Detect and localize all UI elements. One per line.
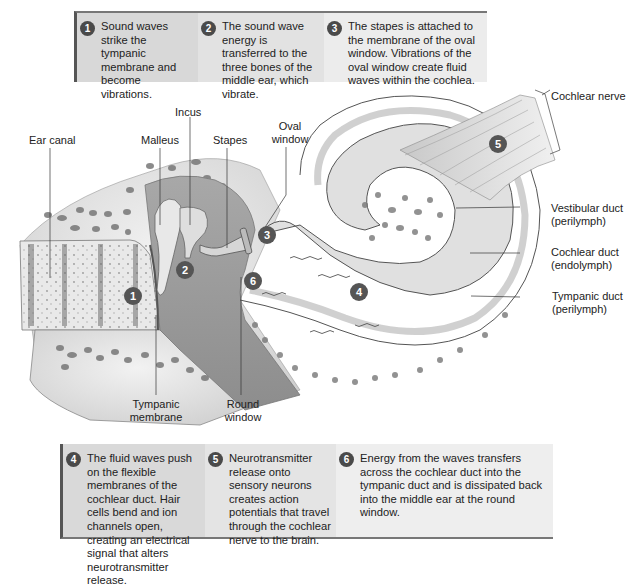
step-number-badge: 6 bbox=[339, 452, 354, 467]
marker-4: 4 bbox=[350, 283, 368, 301]
marker-1: 1 bbox=[124, 287, 142, 305]
marker-5: 5 bbox=[489, 135, 507, 153]
step-number-badge: 5 bbox=[208, 452, 223, 467]
marker-6: 6 bbox=[244, 272, 262, 290]
label-stapes: Stapes bbox=[213, 134, 247, 147]
step-text: Energy from the waves transfers across t… bbox=[360, 452, 542, 518]
step-number-badge: 4 bbox=[66, 452, 81, 467]
label-cochlear-duct: Cochlear duct (endolymph) bbox=[551, 246, 619, 272]
label-tympanic-duct: Tympanic duct (perilymph) bbox=[552, 290, 623, 316]
bottom-steps-panel: 4 The fluid waves push on the flexible m… bbox=[60, 444, 553, 539]
label-malleus: Malleus bbox=[141, 134, 179, 147]
label-tympanic-membrane: Tympanic membrane bbox=[124, 398, 188, 424]
label-ear-canal: Ear canal bbox=[29, 134, 75, 147]
marker-3: 3 bbox=[258, 226, 276, 244]
label-round-window: Round window bbox=[218, 398, 268, 424]
label-cochlear-nerve: Cochlear nerve bbox=[551, 90, 626, 103]
label-oval-window: Oval window bbox=[270, 120, 310, 146]
step-text: Neurotransmitter release onto sensory ne… bbox=[229, 452, 331, 546]
step-text: The fluid waves push on the flexible mem… bbox=[87, 452, 192, 586]
label-incus: Incus bbox=[175, 106, 201, 119]
step-6: 6 Energy from the waves transfers across… bbox=[336, 444, 553, 537]
label-vestibular-duct: Vestibular duct (perilymph) bbox=[551, 202, 623, 228]
step-4: 4 The fluid waves push on the flexible m… bbox=[63, 444, 205, 537]
step-5: 5 Neurotransmitter release onto sensory … bbox=[205, 444, 336, 537]
marker-2: 2 bbox=[176, 261, 194, 279]
